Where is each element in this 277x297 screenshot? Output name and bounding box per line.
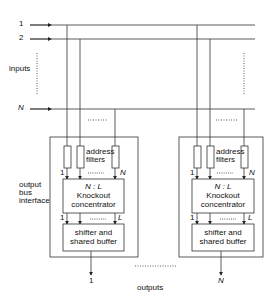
- input-label-2: 2: [19, 33, 23, 42]
- right-ratio: N : L: [192, 182, 254, 191]
- right-filters-label: filters: [216, 155, 235, 164]
- input-label-N: N: [18, 103, 24, 112]
- left-filter-N: N: [120, 168, 126, 177]
- right-concentrator: concentrator: [192, 200, 254, 209]
- right-conc-L: L: [248, 213, 252, 222]
- right-filter-N: N: [249, 168, 255, 177]
- obi-label-line3: interface: [19, 196, 50, 205]
- left-conc-L: L: [118, 213, 122, 222]
- left-shifter: shifter and: [63, 228, 124, 237]
- right-shifter: shifter and: [192, 228, 254, 237]
- left-ratio: N : L: [63, 182, 124, 191]
- left-filter-1: 1: [60, 168, 64, 177]
- output-label-1: 1: [89, 276, 93, 285]
- output-label-N: N: [218, 276, 224, 285]
- right-shared-buffer: shared buffer: [192, 237, 254, 246]
- left-conc-1: 1: [60, 213, 64, 222]
- left-concentrator: concentrator: [63, 200, 124, 209]
- outputs-label: outputs: [137, 283, 163, 292]
- right-conc-1: 1: [190, 213, 194, 222]
- left-shared-buffer: shared buffer: [63, 237, 124, 246]
- left-filters-label: filters: [86, 155, 105, 164]
- right-knockout: Knockout: [192, 191, 254, 200]
- left-knockout: Knockout: [63, 191, 124, 200]
- input-label-1: 1: [19, 19, 23, 28]
- right-filter-1: 1: [190, 168, 194, 177]
- inputs-label: inputs: [9, 64, 30, 73]
